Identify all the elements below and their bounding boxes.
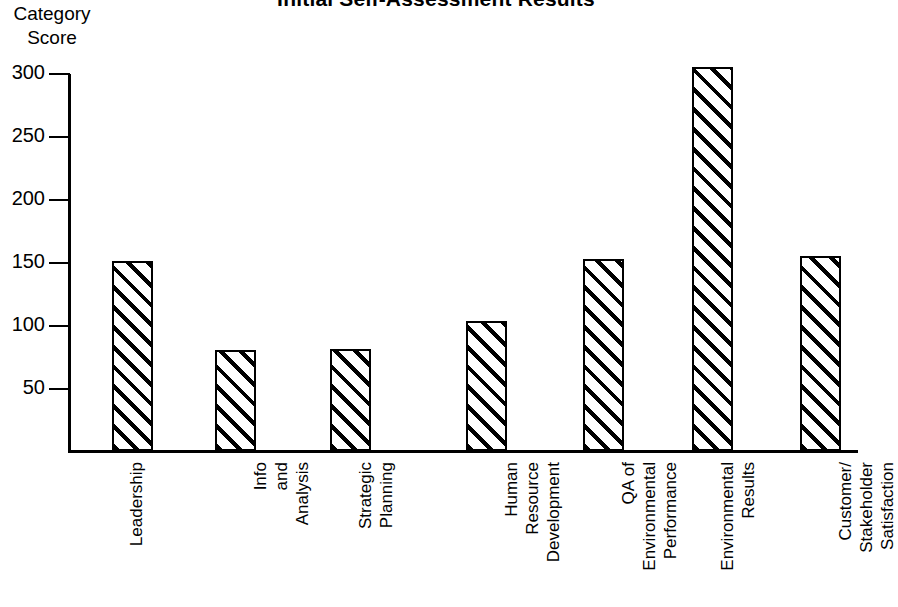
x-category-label-line: Leadership: [126, 462, 147, 602]
x-category-label: QA ofEnvironmentalPerformance: [618, 462, 681, 602]
y-tick-mark: [49, 388, 70, 390]
x-category-label-line: Satisfaction: [877, 462, 898, 602]
y-tick-label: 100: [0, 312, 45, 336]
x-category-label: StrategicPlanning: [355, 462, 397, 602]
y-tick-label: 300: [0, 60, 45, 84]
bar: [112, 261, 153, 451]
x-category-label-line: Human: [501, 462, 522, 602]
x-category-label-line: Environmental: [717, 462, 738, 602]
bar: [466, 321, 507, 451]
bar: [215, 350, 256, 451]
x-category-label-line: QA of: [618, 462, 639, 602]
x-category-label-line: Performance: [660, 462, 681, 602]
bar: [692, 67, 733, 451]
y-tick-label: 250: [0, 123, 45, 147]
x-category-label: Customer/StakeholderSatisfaction: [835, 462, 898, 602]
bar: [800, 256, 841, 451]
x-category-label-line: Analysis: [292, 462, 313, 602]
bar: [583, 259, 624, 451]
x-category-label-line: Stakeholder: [856, 462, 877, 602]
x-category-label: EnvironmentalResults: [717, 462, 759, 602]
x-axis-line: [68, 450, 858, 453]
y-tick-mark: [49, 136, 70, 138]
y-tick-mark: [49, 199, 70, 201]
y-tick-label: 50: [0, 375, 45, 399]
x-category-label: InfoandAnalysis: [250, 462, 313, 602]
x-category-label-line: Resource: [522, 462, 543, 602]
x-category-label-line: Strategic: [355, 462, 376, 602]
x-category-label-line: Results: [738, 462, 759, 602]
x-category-label: HumanResourceDevelopment: [501, 462, 564, 602]
x-category-label: Leadership: [126, 462, 147, 602]
x-category-label-line: Planning: [376, 462, 397, 602]
x-category-label-line: Customer/: [835, 462, 856, 602]
y-tick-mark: [49, 262, 70, 264]
y-tick-label: 200: [0, 186, 45, 210]
bar: [330, 349, 371, 451]
y-tick-mark: [49, 73, 70, 75]
x-category-label-line: Development: [543, 462, 564, 602]
x-category-label-line: and: [271, 462, 292, 602]
y-tick-label: 150: [0, 249, 45, 273]
x-category-label-line: Info: [250, 462, 271, 602]
y-tick-mark: [49, 325, 70, 327]
x-category-label-line: Environmental: [639, 462, 660, 602]
